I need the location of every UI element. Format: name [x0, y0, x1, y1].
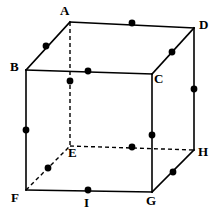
vertex-label-F: F: [11, 191, 19, 204]
midpoint-dots-group: [23, 20, 198, 194]
midpoint-dot-EH: [129, 144, 136, 151]
midpoint-dot-AD: [129, 20, 136, 27]
midpoint-dot-BC: [85, 68, 92, 75]
midpoint-dot-BF: [23, 127, 30, 134]
point-label-I: I: [84, 196, 89, 209]
vertex-label-D: D: [199, 18, 208, 31]
cube-svg-canvas: [0, 0, 218, 222]
midpoint-dot-CG: [149, 132, 156, 139]
midpoint-dot-FE: [45, 165, 52, 172]
cube-diagram: A D B C E H F G I: [0, 0, 218, 222]
vertex-label-A: A: [60, 4, 69, 17]
midpoint-dot-CD: [169, 49, 176, 56]
midpoint-dot-GH: [170, 169, 177, 176]
midpoint-dot-DH: [191, 86, 198, 93]
visible-edges-group: [26, 22, 194, 192]
midpoint-dot-AE: [67, 78, 74, 85]
midpoint-dot-FG: [85, 187, 92, 194]
vertex-label-E: E: [68, 146, 77, 159]
vertex-label-C: C: [154, 72, 163, 85]
midpoint-dot-BA: [43, 43, 50, 50]
vertex-label-H: H: [198, 145, 208, 158]
hidden-edges-group: [26, 22, 194, 190]
vertex-label-B: B: [10, 60, 19, 73]
vertex-label-G: G: [146, 194, 156, 207]
